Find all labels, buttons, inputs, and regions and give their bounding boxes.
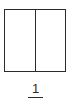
rectangle-part-right	[35, 10, 66, 71]
rectangle-part-left	[5, 10, 35, 71]
diagram-label: 1	[0, 82, 71, 98]
divided-rectangle	[4, 9, 66, 72]
label-text: 1	[28, 82, 43, 98]
